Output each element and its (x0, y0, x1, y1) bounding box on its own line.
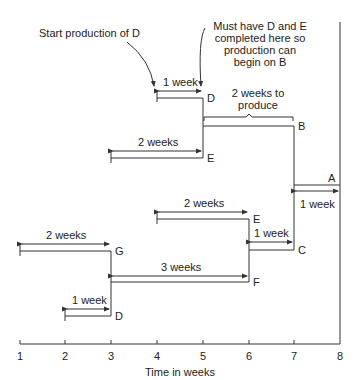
duration-c: 1 week (254, 227, 289, 239)
node-e-top: E (207, 152, 214, 164)
tick-3: 3 (105, 350, 117, 362)
node-g: G (115, 245, 124, 257)
x-axis-label: Time in weeks (130, 366, 230, 378)
duration-f: 3 weeks (161, 261, 201, 273)
start-production-d-note: Start production of D (39, 27, 140, 39)
duration-e-low: 2 weeks (184, 197, 224, 209)
duration-a: 1 week (300, 198, 335, 210)
tick-5: 5 (197, 350, 209, 362)
must-have-note-line1: Must have D and E (210, 20, 310, 32)
b-produce-note-line2: produce (218, 99, 298, 111)
must-have-note-line3: production can (210, 44, 310, 56)
tick-2: 2 (59, 350, 71, 362)
duration-d-low: 1 week (72, 294, 107, 306)
node-d-top: D (207, 92, 215, 104)
node-c: C (298, 244, 306, 256)
node-b: B (298, 120, 305, 132)
tick-1: 1 (14, 350, 26, 362)
node-f: F (253, 276, 260, 288)
duration-g: 2 weeks (46, 229, 86, 241)
duration-d-top: 1 week (163, 76, 198, 88)
duration-e-top: 2 weeks (138, 136, 178, 148)
node-e-low: E (253, 213, 260, 225)
node-a: A (328, 172, 335, 184)
tick-6: 6 (243, 350, 255, 362)
must-have-note-line4: begin on B (210, 56, 310, 68)
must-have-note-line2: completed here so (210, 32, 310, 44)
tick-4: 4 (151, 350, 163, 362)
tick-8: 8 (334, 350, 346, 362)
b-produce-note-line1: 2 weeks to (218, 87, 298, 99)
tick-7: 7 (288, 350, 300, 362)
node-d-low: D (115, 310, 123, 322)
